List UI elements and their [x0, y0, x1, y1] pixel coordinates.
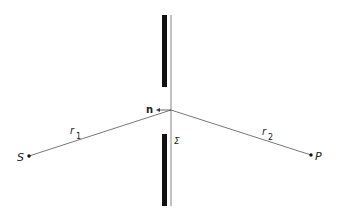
- label-r1-subscript: 1: [76, 132, 81, 141]
- upper-screen: [162, 15, 167, 87]
- ray-r1: [29, 110, 171, 156]
- lower-screen: [162, 134, 167, 206]
- label-point: P: [315, 150, 322, 163]
- label-surface: Σ: [174, 136, 180, 146]
- label-normal: n: [146, 104, 153, 115]
- source-point: [27, 154, 30, 157]
- observation-point: [309, 153, 312, 156]
- diffraction-diagram: S P r 1 r 2 n Σ: [0, 0, 339, 212]
- ray-r2: [171, 110, 311, 155]
- label-r2-subscript: 2: [268, 133, 273, 142]
- label-r2: r: [262, 126, 267, 137]
- normal-arrow-icon: [156, 108, 160, 112]
- diagram-canvas: S P r 1 r 2 n Σ: [0, 0, 339, 212]
- label-source: S: [17, 151, 24, 164]
- label-r1: r: [70, 125, 75, 136]
